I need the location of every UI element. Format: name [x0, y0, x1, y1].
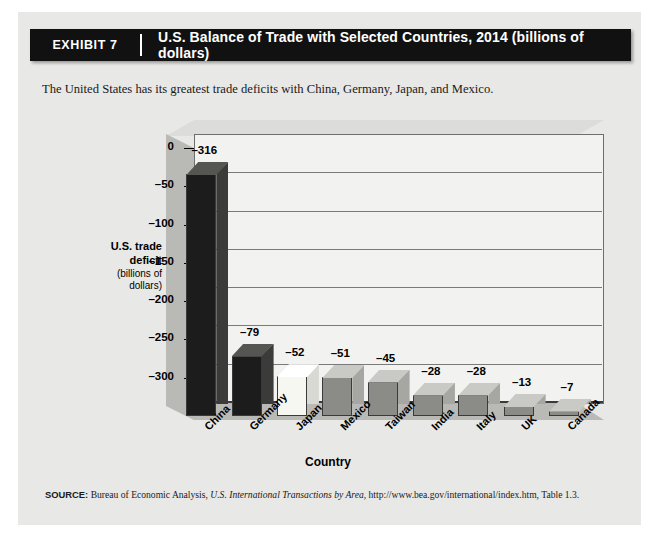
- source-text-after: , http://www.bea.gov/international/index…: [364, 489, 579, 500]
- x-axis-title: Country: [38, 455, 618, 469]
- bar: –45: [368, 382, 398, 416]
- y-axis-title-line1: U.S. trade: [66, 240, 162, 254]
- y-axis-label: –200: [128, 293, 174, 305]
- exhibit-header-bar: EXHIBIT 7 U.S. Balance of Trade with Sel…: [30, 29, 631, 61]
- y-axis-label: –100: [128, 217, 174, 229]
- gridline: [194, 172, 602, 173]
- bar-value-label: –7: [535, 381, 599, 393]
- plot-area: –300–250–200–150–100–500 –316–79–52–51–4…: [166, 120, 606, 420]
- gridline: [194, 287, 602, 288]
- bar-side-face: [216, 162, 228, 404]
- bar-value-label: –316: [172, 144, 236, 156]
- bar-front-face: [232, 356, 262, 416]
- source-note: SOURCE: Bureau of Economic Analysis, U.S…: [45, 489, 620, 500]
- y-axis-title-line4: dollars): [66, 280, 162, 293]
- bar: –79: [232, 356, 262, 416]
- y-axis-label: –300: [128, 370, 174, 382]
- y-axis-title-line3: (billions of: [66, 268, 162, 281]
- bar-front-face: [322, 377, 352, 416]
- chart-container: U.S. trade deficit (billions of dollars)…: [38, 112, 618, 467]
- exhibit-subtitle: The United States has its greatest trade…: [42, 82, 612, 97]
- source-text-before: Bureau of Economic Analysis,: [88, 489, 210, 500]
- source-publication: U.S. International Transactions by Area: [210, 489, 364, 500]
- bar-front-face: [368, 382, 398, 416]
- y-axis-label: –250: [128, 331, 174, 343]
- bar-value-label: –45: [354, 352, 418, 364]
- gridline: [194, 211, 602, 212]
- gridline: [194, 249, 602, 250]
- exhibit-number-label: EXHIBIT 7: [30, 38, 140, 52]
- bar-value-label: –28: [444, 365, 508, 377]
- exhibit-title: U.S. Balance of Trade with Selected Coun…: [142, 29, 631, 61]
- bar-value-label: –79: [218, 326, 282, 338]
- y-axis-label: 0: [128, 140, 174, 152]
- page-root: EXHIBIT 7 U.S. Balance of Trade with Sel…: [0, 0, 659, 539]
- bar: –51: [322, 377, 352, 416]
- y-axis-label: –50: [128, 178, 174, 190]
- bar-front-face: [186, 174, 216, 416]
- source-label: SOURCE:: [45, 489, 88, 500]
- bar: –316: [186, 174, 216, 416]
- y-axis-label: –150: [128, 255, 174, 267]
